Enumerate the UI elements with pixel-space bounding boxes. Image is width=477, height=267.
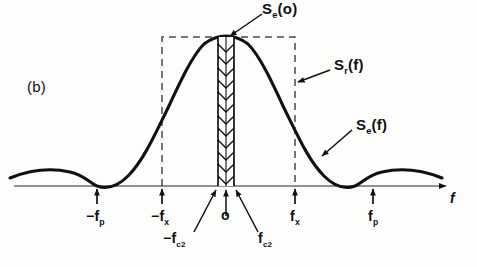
figure-panel-b: (b) Se(o) Sr(f) Se(f) f −fp −fx −fc2 o f… [0,0,477,267]
tick-label-plus-fc2: fc2 [258,230,272,249]
tick-label-plus-fp: fp [368,208,378,227]
tick-minus-fx-base: −f [151,208,164,224]
se-base: S [356,116,366,133]
se-zero-arg: (o) [278,0,298,17]
panel-label: (b) [27,78,46,95]
tick-minus-fp-base: −f [86,208,99,224]
tick-label-minus-fx: −fx [151,208,169,227]
tick-plus-fc2-sub: c2 [263,240,272,249]
axis-tick-arrows [97,189,373,204]
tick-minus-fp-sub: p [99,217,105,227]
tick-minus-fc2-base: −f [163,230,176,246]
tick-label-minus-fp: −fp [86,208,105,227]
sr-base: S [334,56,344,73]
annotation-se: Se(f) [356,116,387,136]
sr-leader [298,70,330,82]
se-f-leader [322,130,352,156]
diagram-canvas [0,0,477,267]
axis-label-f: f [450,190,455,206]
annotation-se-zero: Se(o) [262,0,297,20]
tick-plus-fp-sub: p [373,217,379,227]
hatched-band [218,37,234,186]
tick-plus-fx-sub: x [295,217,300,227]
se-arg: (f) [372,116,388,133]
sr-arg: (f) [348,56,364,73]
tick-label-origin: o [221,207,230,223]
se-zero-base: S [262,0,272,17]
se-o-leader [230,14,262,36]
tick-label-minus-fc2: −fc2 [163,230,186,249]
annotation-sr: Sr(f) [334,56,364,76]
tick-label-plus-fx: fx [290,208,300,227]
tick-minus-fx-sub: x [164,217,169,227]
tick-minus-fc2-sub: c2 [176,240,185,249]
